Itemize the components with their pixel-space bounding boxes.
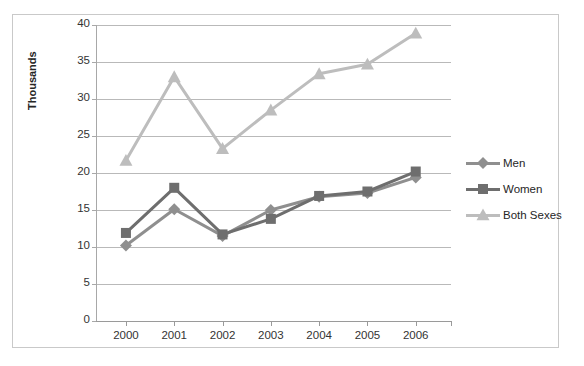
data-point-marker: [411, 167, 421, 177]
data-point-marker: [477, 157, 489, 169]
y-axis-tick-label: 5: [30, 276, 90, 288]
data-point-marker: [477, 209, 490, 221]
y-axis-tick-label: 35: [30, 54, 90, 66]
x-axis-tick: [271, 321, 272, 326]
x-axis-tick: [126, 321, 127, 326]
data-point-marker: [409, 27, 422, 39]
data-point-marker: [119, 154, 132, 166]
data-point-marker: [168, 70, 181, 82]
data-point-marker: [478, 184, 488, 194]
data-point-marker: [266, 214, 276, 224]
legend-label: Men: [503, 157, 525, 169]
series-line: [126, 172, 416, 235]
y-axis-tick-label: 0: [30, 313, 90, 325]
x-axis-tick: [223, 321, 224, 326]
data-point-marker: [314, 191, 324, 201]
legend-swatch-icon: [466, 183, 500, 195]
data-point-marker: [121, 228, 131, 238]
legend-label: Women: [503, 183, 542, 195]
legend-swatch-icon: [466, 209, 500, 221]
y-axis-tick-labels: 4035302520151050: [30, 25, 90, 321]
legend-label: Both Sexes: [503, 209, 562, 221]
y-axis-tick-label: 10: [30, 239, 90, 251]
legend-swatch-icon: [466, 157, 500, 169]
y-axis-tick-label: 20: [30, 165, 90, 177]
data-point-marker: [218, 229, 228, 239]
x-axis-tick-labels: 2000200120022003200420052006: [96, 329, 452, 349]
x-axis-tick: [367, 321, 368, 326]
y-axis-tick-label: 15: [30, 202, 90, 214]
legend-item[interactable]: Both Sexes: [466, 202, 566, 228]
legend-item[interactable]: Men: [466, 150, 566, 176]
data-point-marker: [169, 183, 179, 193]
x-axis-tick: [174, 321, 175, 326]
series-layer: [96, 25, 451, 321]
chart-page: Thousands 4035302520151050 2000200120022…: [0, 0, 584, 366]
x-axis-tick: [319, 321, 320, 326]
chart-legend: MenWomenBoth Sexes: [466, 150, 566, 228]
data-point-marker: [362, 187, 372, 197]
x-axis-tick: [416, 321, 417, 326]
plot-area: [96, 25, 451, 321]
x-axis-tick-label: 2006: [386, 329, 446, 341]
y-axis-tick-label: 30: [30, 91, 90, 103]
x-axis-tick: [451, 321, 452, 326]
legend-item[interactable]: Women: [466, 176, 566, 202]
y-axis-tick-label: 25: [30, 128, 90, 140]
cut-off-title: [0, 0, 584, 10]
x-axis-line: [96, 321, 452, 322]
series-line: [126, 33, 416, 160]
y-axis-tick-label: 40: [30, 17, 90, 29]
